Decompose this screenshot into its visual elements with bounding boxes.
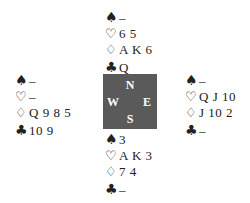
east-hearts: Q J 10 bbox=[199, 89, 236, 104]
diamond-icon: ♢ bbox=[185, 105, 199, 122]
north-diamonds: A K 6 bbox=[119, 42, 153, 57]
east-diamonds: J 10 2 bbox=[199, 105, 233, 120]
west-hand: ♠– ♡– ♢Q 9 8 5 ♣10 9 bbox=[15, 72, 71, 138]
west-hearts-row: ♡– bbox=[15, 89, 71, 106]
club-icon: ♣ bbox=[105, 59, 119, 76]
south-clubs: – bbox=[119, 182, 126, 197]
south-spades: 3 bbox=[119, 132, 126, 147]
north-hearts-row: ♡6 5 bbox=[105, 26, 153, 43]
heart-icon: ♡ bbox=[15, 89, 29, 106]
spade-icon: ♠ bbox=[185, 72, 199, 89]
east-spades: – bbox=[199, 73, 206, 88]
south-hearts: A K 3 bbox=[119, 148, 153, 163]
south-diamonds-row: ♢7 4 bbox=[105, 164, 153, 181]
spade-icon: ♠ bbox=[105, 9, 119, 26]
compass-east-label: E bbox=[141, 95, 153, 110]
club-icon: ♣ bbox=[185, 122, 199, 139]
club-icon: ♣ bbox=[15, 122, 29, 139]
spade-icon: ♠ bbox=[105, 131, 119, 148]
compass-table: N W E S bbox=[103, 74, 157, 129]
compass-north-label: N bbox=[124, 78, 136, 93]
east-clubs: – bbox=[199, 123, 206, 138]
south-hand: ♠3 ♡A K 3 ♢7 4 ♣– bbox=[105, 131, 153, 197]
west-clubs: 10 9 bbox=[29, 123, 54, 138]
compass-south-label: S bbox=[124, 112, 136, 127]
east-hand: ♠– ♡Q J 10 ♢J 10 2 ♣– bbox=[185, 72, 236, 138]
south-spades-row: ♠3 bbox=[105, 131, 153, 148]
north-spades-row: ♠– bbox=[105, 9, 153, 26]
diamond-icon: ♢ bbox=[15, 105, 29, 122]
north-clubs: Q bbox=[119, 60, 129, 75]
west-diamonds-row: ♢Q 9 8 5 bbox=[15, 105, 71, 122]
west-diamonds: Q 9 8 5 bbox=[29, 105, 71, 120]
west-spades-row: ♠– bbox=[15, 72, 71, 89]
club-icon: ♣ bbox=[105, 181, 119, 198]
east-diamonds-row: ♢J 10 2 bbox=[185, 105, 236, 122]
east-clubs-row: ♣– bbox=[185, 122, 236, 139]
south-hearts-row: ♡A K 3 bbox=[105, 148, 153, 165]
diamond-icon: ♢ bbox=[105, 42, 119, 59]
heart-icon: ♡ bbox=[105, 148, 119, 165]
north-hand: ♠– ♡6 5 ♢A K 6 ♣Q bbox=[105, 9, 153, 75]
north-hearts: 6 5 bbox=[119, 26, 137, 41]
north-spades: – bbox=[119, 10, 126, 25]
heart-icon: ♡ bbox=[105, 26, 119, 43]
west-hearts: – bbox=[29, 89, 36, 104]
east-spades-row: ♠– bbox=[185, 72, 236, 89]
diamond-icon: ♢ bbox=[105, 164, 119, 181]
west-spades: – bbox=[29, 73, 36, 88]
compass-west-label: W bbox=[107, 95, 119, 110]
west-clubs-row: ♣10 9 bbox=[15, 122, 71, 139]
south-diamonds: 7 4 bbox=[119, 164, 137, 179]
south-clubs-row: ♣– bbox=[105, 181, 153, 198]
north-clubs-row: ♣Q bbox=[105, 59, 153, 76]
east-hearts-row: ♡Q J 10 bbox=[185, 89, 236, 106]
heart-icon: ♡ bbox=[185, 89, 199, 106]
north-diamonds-row: ♢A K 6 bbox=[105, 42, 153, 59]
spade-icon: ♠ bbox=[15, 72, 29, 89]
